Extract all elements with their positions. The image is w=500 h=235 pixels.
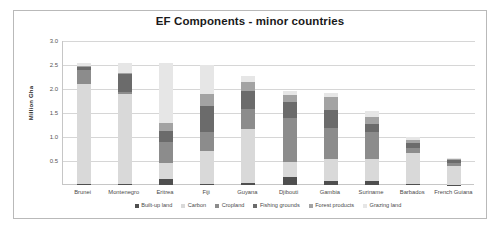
y-tick-label: 2.5 — [18, 62, 58, 68]
legend-label: Forest products — [315, 202, 354, 209]
bar-segment — [365, 124, 379, 132]
bar-segment — [200, 65, 214, 94]
bar-segment — [159, 131, 173, 142]
x-tick-label: Suriname — [350, 187, 391, 197]
y-tick-label: 1.5 — [18, 110, 58, 116]
bar-segment — [159, 63, 173, 123]
legend-label: Grazing land — [370, 202, 402, 209]
x-tick-label: Gambia — [309, 187, 350, 197]
bar-segment — [77, 184, 91, 185]
legend-swatch-icon — [253, 204, 257, 208]
bar-segment — [77, 84, 91, 184]
bar-stack — [159, 63, 173, 185]
bar-segment — [283, 102, 297, 118]
bar-column[interactable] — [365, 41, 379, 185]
bar-stack — [406, 137, 420, 185]
bar-segment — [324, 159, 338, 181]
bar-stack — [77, 63, 91, 185]
bar-segment — [159, 163, 173, 179]
bar-column[interactable] — [283, 41, 297, 185]
legend-label: Carbon — [188, 202, 206, 209]
legend-item[interactable]: Forest products — [309, 202, 354, 209]
legend-label: Fishing grounds — [260, 202, 300, 209]
legend-swatch-icon — [215, 204, 219, 208]
bar-segment — [200, 184, 214, 185]
plot-area — [62, 41, 474, 185]
bar-segment — [283, 95, 297, 102]
y-tick-label: 0.5 — [18, 158, 58, 164]
bar-segment — [241, 91, 255, 109]
chart-screenshot: EF Components - minor countries Million … — [0, 0, 500, 235]
bar-segment — [324, 181, 338, 185]
bar-segment — [200, 151, 214, 183]
bar-column[interactable] — [159, 41, 173, 185]
x-axis-labels: BruneiMontenegroEritreaFijiGuyanaDjibout… — [62, 187, 474, 199]
bar-column[interactable] — [447, 41, 461, 185]
bar-column[interactable] — [406, 41, 420, 185]
bar-stack — [118, 63, 132, 185]
x-tick-label: Guyana — [227, 187, 268, 197]
bar-segment — [406, 184, 420, 185]
bar-stack — [200, 65, 214, 185]
legend-swatch-icon — [363, 204, 367, 208]
bar-column[interactable] — [324, 41, 338, 185]
y-tick-label: 1.0 — [18, 134, 58, 140]
bar-segment — [159, 123, 173, 132]
bar-segment — [324, 110, 338, 128]
bar-column[interactable] — [200, 41, 214, 185]
legend-swatch-icon — [181, 204, 185, 208]
bar-segment — [365, 181, 379, 185]
bar-segment — [241, 82, 255, 91]
x-tick-label: Fiji — [186, 187, 227, 197]
bar-column[interactable] — [241, 41, 255, 185]
bar-segment — [365, 111, 379, 118]
bar-segment — [200, 94, 214, 106]
legend-label: Built-up land — [141, 202, 172, 209]
bar-segment — [118, 74, 132, 92]
bar-segment — [200, 106, 214, 132]
x-tick-label: Eritrea — [144, 187, 185, 197]
chart-title: EF Components - minor countries — [0, 15, 500, 27]
legend-item[interactable]: Carbon — [181, 202, 206, 209]
bar-segment — [365, 159, 379, 182]
legend-swatch-icon — [135, 204, 139, 208]
chart-legend: Built-up landCarbonCroplandFishing groun… — [62, 202, 474, 209]
x-tick-label: Montenegro — [103, 187, 144, 197]
bar-segment — [324, 97, 338, 110]
y-axis-ticks: 0.51.01.52.02.53.0 — [0, 0, 62, 185]
y-tick-label: 2.0 — [18, 86, 58, 92]
legend-item[interactable]: Grazing land — [363, 202, 401, 209]
x-tick-label: Brunei — [62, 187, 103, 197]
bar-segment — [200, 132, 214, 151]
bar-stack — [241, 76, 255, 185]
legend-item[interactable]: Built-up land — [135, 202, 173, 209]
bar-segment — [283, 177, 297, 185]
bar-column[interactable] — [118, 41, 132, 185]
bar-segment — [241, 109, 255, 129]
bar-segment — [283, 162, 297, 178]
bar-segment — [241, 129, 255, 183]
bar-segment — [324, 128, 338, 159]
bar-column[interactable] — [77, 41, 91, 185]
y-tick-label: 3.0 — [18, 38, 58, 44]
bar-segment — [159, 142, 173, 164]
bar-stack — [447, 158, 461, 185]
x-tick-label: Djibouti — [268, 187, 309, 197]
bar-segment — [159, 179, 173, 185]
bar-segment — [118, 94, 132, 184]
legend-item[interactable]: Fishing grounds — [253, 202, 299, 209]
bars-layer — [63, 41, 475, 185]
bar-stack — [365, 111, 379, 185]
bar-segment — [365, 132, 379, 158]
bar-stack — [283, 91, 297, 185]
bar-segment — [447, 166, 461, 184]
bar-segment — [241, 183, 255, 185]
bar-segment — [283, 118, 297, 161]
bar-stack — [324, 93, 338, 185]
bar-segment — [406, 153, 420, 184]
legend-label: Cropland — [222, 202, 245, 209]
x-tick-label: Barbados — [392, 187, 433, 197]
bar-segment — [118, 63, 132, 74]
bar-segment — [118, 184, 132, 185]
legend-item[interactable]: Cropland — [215, 202, 244, 209]
